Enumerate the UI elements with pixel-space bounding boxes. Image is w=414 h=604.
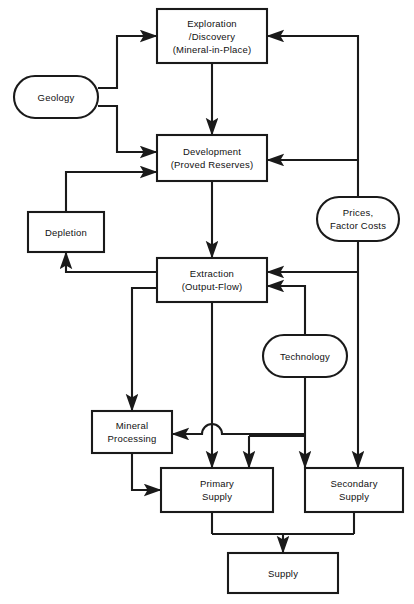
node-depletion-shape	[28, 212, 104, 252]
edge-technology-to-extraction	[267, 286, 305, 335]
edge-depletion-to-development	[66, 172, 157, 212]
edge-prices-to-exploration	[267, 36, 358, 197]
edge-extraction-to-depletion	[66, 252, 157, 272]
node-secondary-supply-shape	[305, 468, 403, 512]
edge-geology-to-exploration	[98, 36, 157, 88]
edge-mineral-processing-to-primary-supply	[132, 453, 161, 490]
node-development-shape	[157, 135, 267, 181]
edge-geology-to-development	[98, 106, 157, 152]
node-exploration-shape	[157, 9, 267, 63]
flowchart-diagram: Exploration /Discovery (Mineral-in-Place…	[0, 0, 414, 604]
diagram-canvas	[0, 0, 414, 604]
edge-extraction-to-mineral-processing	[132, 288, 157, 411]
node-supply-shape	[228, 553, 338, 593]
node-primary-supply-shape	[161, 468, 273, 512]
node-technology-shape	[263, 335, 347, 377]
edge-feed-to-mineral-processing	[172, 424, 305, 434]
node-prices-shape	[317, 197, 399, 241]
node-mineral-processing-shape	[92, 411, 172, 453]
node-extraction-shape	[157, 258, 267, 302]
node-geology-shape	[14, 76, 98, 118]
